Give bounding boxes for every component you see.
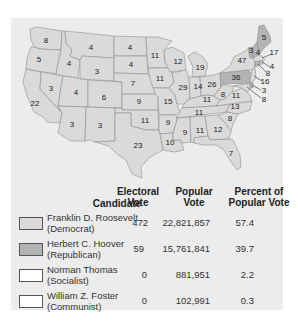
electoral-vote: 59 [128,243,144,254]
candidate-name: Franklin D. Roosevelt(Democrat) [47,213,138,234]
ev-label-ar: 9 [166,119,170,127]
percent-vote: 2.2 [232,269,254,280]
ev-label-wy: 3 [95,68,99,76]
ev-label-ky: 11 [203,96,211,104]
ev-label-ia: 11 [156,75,164,83]
ev-label-pa: 36 [232,74,241,82]
ev-label-ny: 47 [238,57,247,65]
ev-label-in: 14 [194,83,203,91]
popular-vote: 22,821,857 [158,217,210,228]
ev-label-wv: 8 [221,91,225,99]
electoral-vote: 0 [128,295,147,306]
ev-label-ks: 9 [137,98,141,106]
electoral-vote: 0 [128,269,147,280]
ev-label-id: 4 [67,60,71,68]
ev-label-vt: 3 [249,47,253,55]
swatch-socialist [19,269,43,282]
ev-label-wa: 8 [44,37,48,45]
ev-label-nm: 3 [98,122,102,130]
ev-label-mo: 15 [164,98,173,106]
header-popular-vote: PopularVote [166,186,222,208]
ev-label-ut: 4 [74,89,78,97]
ev-label-de: 3 [262,87,266,95]
ev-label-ne: 7 [131,80,135,88]
ev-label-me: 5 [262,34,266,42]
ev-label-nh: 4 [256,49,260,57]
ev-label-md: 8 [262,96,266,104]
swatch-communist [19,295,43,308]
ev-label-mi: 19 [196,64,205,72]
percent-vote: 39.7 [232,243,254,254]
state-fl [194,136,241,170]
header-percent-popular-vote: Percent ofPopular Vote [221,186,297,208]
ev-label-ma: 17 [270,49,279,57]
ev-label-tn: 11 [195,109,203,117]
ev-label-sd: 4 [129,61,133,69]
ev-label-al: 11 [196,127,204,135]
ev-label-ca: 22 [31,100,40,108]
ev-label-or: 5 [37,56,41,64]
popular-vote: 881,951 [158,269,210,280]
us-electoral-map: 8522434346334479112311111591012291914261… [0,0,298,185]
ev-label-nj: 16 [261,78,270,86]
ev-label-tx: 23 [134,142,143,150]
ev-label-co: 6 [102,94,106,102]
ev-label-wi: 12 [174,58,183,66]
ev-label-ms: 9 [183,129,187,137]
electoral-vote: 472 [128,217,148,228]
ev-label-nd: 4 [128,44,132,52]
ev-label-sc: 8 [228,115,232,123]
ev-label-ri: 4 [270,63,274,71]
popular-vote: 102,991 [158,295,210,306]
ev-label-nc: 13 [231,103,240,111]
percent-vote: 0.3 [232,295,254,306]
legend-row-thomas: Norman Thomas(Socialist) 0 881,951 2.2 [0,263,298,289]
swatch-republican [19,243,43,256]
ev-label-mn: 11 [151,52,159,60]
swatch-democrat [19,217,43,230]
candidate-name: Norman Thomas(Socialist) [47,265,118,286]
ev-label-fl: 7 [229,150,233,158]
states-svg [0,0,298,185]
ev-label-az: 3 [70,121,74,129]
popular-vote: 15,761,841 [158,243,210,254]
ev-label-va: 11 [232,92,240,100]
ev-label-ok: 11 [141,117,149,125]
ev-label-la: 10 [166,139,175,147]
state-ct [255,61,260,67]
candidate-name: William Z. Foster(Communist) [47,291,118,312]
ev-label-nv: 3 [49,85,53,93]
ev-label-oh: 26 [208,81,217,89]
ev-label-mt: 4 [89,44,93,52]
percent-vote: 57.4 [232,217,254,228]
legend-row-foster: William Z. Foster(Communist) 0 102,991 0… [0,289,298,315]
candidate-name: Herbert C. Hoover(Republican) [47,239,124,260]
header-electoral-vote: ElectoralVote [112,186,164,208]
ev-label-ga: 12 [214,126,223,134]
legend-row-roosevelt: Franklin D. Roosevelt(Democrat) 472 22,8… [0,211,298,237]
ev-label-il: 29 [179,84,188,92]
legend-row-hoover: Herbert C. Hoover(Republican) 59 15,761,… [0,237,298,263]
